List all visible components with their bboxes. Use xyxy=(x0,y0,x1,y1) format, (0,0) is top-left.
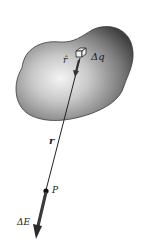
unit-vector-label: r̂ xyxy=(63,56,67,65)
field-element-label: ΔE xyxy=(17,218,30,227)
field-vector-shaft xyxy=(38,192,46,226)
charge-element-label: Δq xyxy=(91,52,105,62)
diagram-canvas xyxy=(0,0,144,241)
field-vector-arrowhead-icon xyxy=(33,224,42,239)
distance-label: r xyxy=(49,136,54,146)
point-label: P xyxy=(52,186,58,195)
